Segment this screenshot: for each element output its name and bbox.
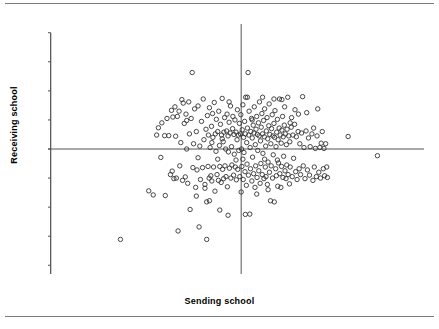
data-point (211, 165, 215, 169)
data-point (263, 144, 267, 148)
data-point (198, 144, 202, 148)
data-point (240, 164, 244, 168)
data-point (318, 176, 322, 180)
data-point (300, 94, 304, 98)
data-point (173, 134, 177, 138)
data-point (262, 107, 266, 111)
data-point (244, 140, 248, 144)
data-point (270, 112, 274, 116)
data-point (311, 178, 315, 182)
data-point (293, 108, 297, 112)
data-point (156, 126, 160, 130)
reference-lines (48, 24, 424, 274)
data-point (184, 118, 188, 122)
data-point (227, 120, 231, 124)
data-point (260, 111, 264, 115)
data-point (267, 102, 271, 106)
data-point (201, 97, 205, 101)
data-point (231, 173, 235, 177)
data-point (273, 108, 277, 112)
data-point (186, 181, 190, 185)
data-point (323, 142, 327, 146)
data-point (266, 137, 270, 141)
data-point (246, 173, 250, 177)
data-point (286, 95, 290, 99)
data-point (288, 140, 292, 144)
data-point (227, 100, 231, 104)
plot-area: −5−4−3−2−1012345−4−3−2−101234 (48, 24, 424, 274)
data-point (254, 192, 258, 196)
data-point (191, 142, 195, 146)
data-point (241, 177, 245, 181)
top-divider-rule (5, 3, 434, 4)
data-point (258, 181, 262, 185)
data-point (257, 100, 261, 104)
data-point (154, 133, 158, 137)
data-point (233, 118, 237, 122)
data-point (206, 133, 210, 137)
data-point (315, 134, 319, 138)
data-point (253, 185, 257, 189)
data-point (260, 95, 264, 99)
data-point (118, 237, 122, 241)
data-point (287, 182, 291, 186)
data-point (184, 112, 188, 116)
data-point (251, 172, 255, 176)
data-point (271, 153, 275, 157)
data-point (303, 176, 307, 180)
data-point (248, 167, 252, 171)
data-point (218, 208, 222, 212)
data-point (173, 105, 177, 109)
data-point (248, 212, 252, 216)
data-point (259, 125, 263, 129)
data-point (205, 113, 209, 117)
data-point (214, 117, 218, 121)
data-point (292, 122, 296, 126)
data-point (210, 111, 214, 115)
data-point (199, 119, 203, 123)
data-point (222, 130, 226, 134)
data-point (176, 229, 180, 233)
data-point (188, 207, 192, 211)
data-point (160, 121, 164, 125)
data-point (179, 140, 183, 144)
data-point (243, 169, 247, 173)
scatter-svg: −5−4−3−2−1012345−4−3−2−101234 (48, 24, 424, 274)
data-point (312, 165, 316, 169)
data-point (269, 142, 273, 146)
data-point (298, 142, 302, 146)
data-point (282, 105, 286, 109)
data-point (269, 126, 273, 130)
bottom-divider-rule (5, 316, 434, 317)
data-point (289, 115, 293, 119)
data-point (316, 107, 320, 111)
data-point (247, 109, 251, 113)
data-point (275, 117, 279, 121)
data-point (306, 136, 310, 140)
data-point (291, 156, 295, 160)
data-point (279, 141, 283, 145)
data-point (263, 165, 267, 169)
data-point (245, 126, 249, 130)
data-point (253, 164, 257, 168)
data-point (229, 144, 233, 148)
data-point (225, 112, 229, 116)
data-point (307, 173, 311, 177)
data-point (169, 108, 173, 112)
axis-spines (51, 33, 424, 274)
data-point (283, 169, 287, 173)
data-point (234, 158, 238, 162)
data-point (177, 109, 181, 113)
data-point (151, 193, 155, 197)
data-point (189, 116, 193, 120)
data-point (275, 158, 279, 162)
data-point (280, 114, 284, 118)
data-point (282, 123, 286, 127)
data-point (165, 116, 169, 120)
data-point (187, 132, 191, 136)
data-point (200, 165, 204, 169)
data-point (256, 121, 260, 125)
data-point (273, 167, 277, 171)
data-point (171, 115, 175, 119)
data-point (287, 134, 291, 138)
